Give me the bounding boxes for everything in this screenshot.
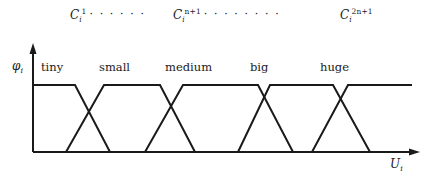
y-axis-arrowhead	[30, 43, 37, 54]
fuzzy-membership-figure: Ci1· · · · · · Cin+1· · · · · · · · Ci2n…	[0, 0, 436, 187]
x-axis-arrowhead	[409, 149, 420, 156]
membership-curve-big	[238, 85, 370, 152]
membership-plot	[0, 0, 436, 187]
membership-curve-huge	[312, 85, 412, 152]
membership-curve-small	[66, 85, 195, 152]
membership-curve-medium	[145, 85, 293, 152]
